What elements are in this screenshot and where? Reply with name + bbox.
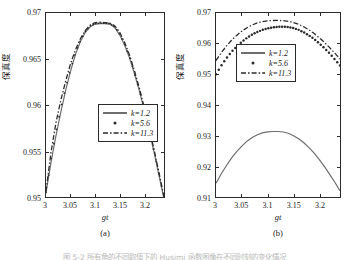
legend-item: k=1.2 bbox=[240, 48, 291, 58]
x-tick-mark bbox=[120, 194, 121, 198]
y-tick-mark bbox=[161, 59, 165, 60]
x-tick-label: 3.15 bbox=[113, 201, 127, 210]
y-tick-mark bbox=[337, 43, 341, 44]
y-tick-mark bbox=[45, 59, 49, 60]
legend-label: k=1.2 bbox=[128, 109, 150, 118]
y-tick-label: 0.92 bbox=[197, 163, 211, 172]
x-tick-label: 3.2 bbox=[315, 201, 325, 210]
legend-item: k=5.6 bbox=[102, 118, 153, 128]
x-tick-mark bbox=[145, 194, 146, 198]
y-tick-label: 0.95 bbox=[27, 194, 41, 203]
y-tick-mark bbox=[161, 105, 165, 106]
figure-container: 保真度 0.950.9550.960.9650.97 33.053.13.153… bbox=[0, 0, 349, 260]
y-tick-mark bbox=[161, 12, 165, 13]
x-tick-mark bbox=[70, 12, 71, 16]
legend-marker-dotted-icon bbox=[240, 58, 266, 68]
legend-label: k=5.6 bbox=[266, 59, 288, 68]
x-tick-mark bbox=[320, 194, 321, 198]
x-tick-mark bbox=[145, 12, 146, 16]
y-tick-mark bbox=[45, 105, 49, 106]
y-tick-mark bbox=[337, 105, 341, 106]
x-tick-label: 3.1 bbox=[90, 201, 100, 210]
x-axis-label-a: gt bbox=[85, 212, 125, 222]
y-tick-mark bbox=[215, 74, 219, 75]
legend-item: k=5.6 bbox=[240, 58, 291, 68]
legend-marker-solid-icon bbox=[102, 108, 128, 118]
panel-sublabel-a: (a) bbox=[85, 228, 125, 238]
y-tick-mark bbox=[215, 43, 219, 44]
y-tick-mark bbox=[337, 167, 341, 168]
x-tick-label: 3.05 bbox=[234, 201, 248, 210]
legend-b: k=1.2k=5.6k=11.3 bbox=[236, 44, 296, 82]
y-tick-label: 0.97 bbox=[27, 8, 41, 17]
x-tick-mark bbox=[320, 12, 321, 16]
legend-item: k=1.2 bbox=[102, 108, 153, 118]
x-tick-mark bbox=[70, 194, 71, 198]
y-tick-label: 0.96 bbox=[197, 39, 211, 48]
x-axis-label-b: gt bbox=[258, 212, 298, 222]
legend-a: k=1.2k=5.6k=11.3 bbox=[98, 104, 158, 142]
y-tick-mark bbox=[45, 12, 49, 13]
y-tick-mark bbox=[337, 12, 341, 13]
legend-label: k=5.6 bbox=[128, 119, 150, 128]
x-tick-label: 3.05 bbox=[63, 201, 77, 210]
y-tick-mark bbox=[215, 105, 219, 106]
plot-area-b bbox=[215, 12, 341, 198]
y-tick-mark bbox=[337, 136, 341, 137]
x-tick-mark bbox=[294, 194, 295, 198]
legend-marker-dashdot-icon bbox=[102, 128, 128, 138]
legend-label: k=11.3 bbox=[128, 129, 153, 138]
x-tick-mark bbox=[294, 12, 295, 16]
y-axis-label-b: 保真度 bbox=[176, 36, 185, 96]
y-tick-mark bbox=[215, 136, 219, 137]
panel-a: 保真度 0.950.9550.960.9650.97 33.053.13.153… bbox=[0, 0, 175, 245]
legend-marker-dotted-icon bbox=[102, 118, 128, 128]
x-tick-label: 3 bbox=[213, 201, 217, 210]
x-tick-mark bbox=[120, 12, 121, 16]
x-tick-mark bbox=[95, 194, 96, 198]
legend-marker-dashdot-icon bbox=[240, 68, 266, 78]
x-tick-mark bbox=[95, 12, 96, 16]
legend-item: k=11.3 bbox=[240, 68, 291, 78]
x-tick-mark bbox=[241, 194, 242, 198]
y-axis-label-a: 保真度 bbox=[2, 36, 11, 96]
x-tick-mark bbox=[268, 12, 269, 16]
x-tick-label: 3.1 bbox=[263, 201, 273, 210]
legend-label: k=11.3 bbox=[266, 69, 291, 78]
y-tick-label: 0.94 bbox=[197, 101, 211, 110]
y-tick-label: 0.96 bbox=[27, 101, 41, 110]
x-tick-label: 3.2 bbox=[140, 201, 150, 210]
y-tick-mark bbox=[337, 74, 341, 75]
figure-caption: 图 5-2 所有角的不同取值下的 Husimi 函数图像在不同时刻的变化情况 bbox=[0, 251, 349, 260]
legend-item: k=11.3 bbox=[102, 128, 153, 138]
legend-label: k=1.2 bbox=[266, 49, 288, 58]
panel-b: 保真度 0.910.920.930.940.950.960.97 33.053.… bbox=[174, 0, 349, 245]
y-tick-label: 0.93 bbox=[197, 132, 211, 141]
y-tick-label: 0.955 bbox=[23, 147, 41, 156]
y-tick-label: 0.91 bbox=[197, 194, 211, 203]
y-tick-label: 0.97 bbox=[197, 8, 211, 17]
x-tick-label: 3.15 bbox=[287, 201, 301, 210]
y-tick-mark bbox=[215, 167, 219, 168]
y-tick-label: 0.965 bbox=[23, 54, 41, 63]
y-tick-mark bbox=[45, 152, 49, 153]
x-tick-mark bbox=[241, 12, 242, 16]
panel-sublabel-b: (b) bbox=[258, 228, 298, 238]
x-tick-mark bbox=[268, 194, 269, 198]
series-line-k=1.2 bbox=[216, 132, 340, 191]
legend-marker-solid-icon bbox=[240, 48, 266, 58]
y-tick-mark bbox=[161, 152, 165, 153]
curves-b bbox=[216, 13, 340, 197]
y-tick-mark bbox=[215, 12, 219, 13]
y-tick-label: 0.95 bbox=[197, 70, 211, 79]
x-tick-label: 3 bbox=[43, 201, 47, 210]
